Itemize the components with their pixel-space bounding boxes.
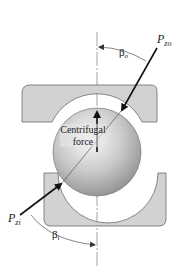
p-zo-label: Pzo xyxy=(156,32,171,48)
centrifugal-force-label-line1: Centrifugal xyxy=(60,124,106,135)
beta-o-label: βo xyxy=(119,46,129,60)
beta-i-label: βi xyxy=(52,228,60,242)
p-zi-label: Pzi xyxy=(7,211,21,227)
centrifugal-force-label-line2: force xyxy=(73,136,94,147)
bearing-contact-diagram: Centrifugal force Pzo Pzi βo βi xyxy=(0,0,187,270)
